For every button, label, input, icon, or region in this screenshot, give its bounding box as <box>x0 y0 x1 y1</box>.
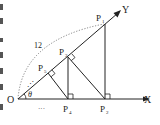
angle-theta-arc <box>24 94 26 99</box>
svg-text:P: P <box>100 104 105 114</box>
angle-theta-label: θ <box>28 90 32 99</box>
svg-text:4: 4 <box>69 110 72 115</box>
y-axis-label: Y <box>122 4 129 15</box>
svg-text:5: 5 <box>44 69 47 74</box>
point-p5-label: P 5 <box>38 63 47 74</box>
length-label: 12 <box>34 41 42 50</box>
right-angle-p2 <box>105 94 110 99</box>
segment-p2-p3 <box>68 57 105 99</box>
x-axis-label: X <box>144 94 152 105</box>
cropped-text-fragments <box>0 4 3 110</box>
svg-text:P: P <box>96 13 101 23</box>
axis-ellipsis: ··· <box>38 105 45 113</box>
right-angle-p4 <box>68 94 73 99</box>
point-p1-label: P 1 <box>96 13 105 24</box>
svg-text:1: 1 <box>102 19 105 24</box>
svg-text:2: 2 <box>106 110 109 115</box>
svg-text:P: P <box>59 47 64 57</box>
svg-text:P: P <box>38 63 43 73</box>
segment-p4-p5 <box>48 73 68 99</box>
right-angle-p5 <box>51 70 55 77</box>
right-angle-p3 <box>71 54 75 61</box>
svg-text:P: P <box>63 104 68 114</box>
point-p2-label: P 2 <box>100 104 109 115</box>
point-p3-label: P 3 <box>59 47 68 58</box>
geometry-diagram: O X Y θ 12 ⋰ ··· P 1 P 2 P 3 P 4 P 5 <box>0 0 160 125</box>
point-p4-label: P 4 <box>63 104 72 115</box>
ray-ellipsis: ⋰ <box>27 80 34 88</box>
origin-label: O <box>7 94 14 105</box>
